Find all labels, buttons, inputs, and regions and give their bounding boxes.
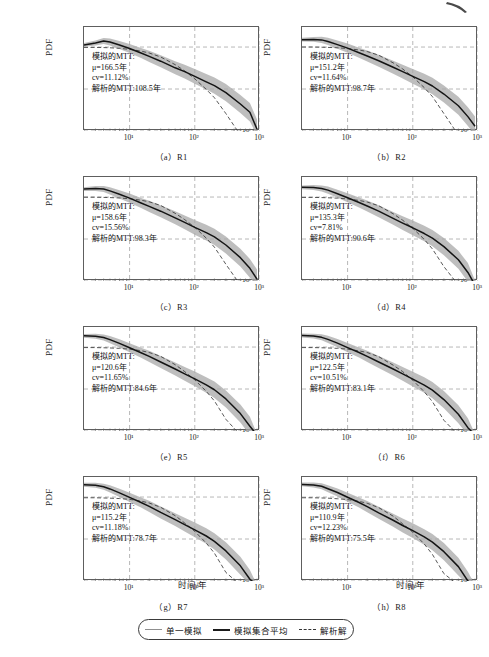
xaxis-tick: 10³: [254, 283, 264, 292]
panel-r1: PDF10⁻²10⁻³10⁻⁴10¹10²10³模拟的MTT:μ=166.5年c…: [46, 22, 274, 172]
figure-root: PDF10⁻²10⁻³10⁻⁴10¹10²10³模拟的MTT:μ=166.5年c…: [0, 0, 489, 657]
panel-r8: PDF10⁻²10⁻³10⁻⁴10¹10²10³模拟的MTT:μ=110.9年c…: [264, 472, 489, 622]
xaxis-tick: 10³: [254, 583, 264, 592]
cv-value: cv=11.12%: [92, 73, 161, 84]
mtt-title: 模拟的MTT:: [92, 352, 157, 363]
xaxis-label-left: 时间/年: [178, 578, 207, 590]
panel-r4: PDF10⁻²10⁻³10⁻⁴10¹10²10³模拟的MTT:μ=135.3年c…: [264, 172, 489, 322]
mu-value: μ=158.6年: [92, 213, 157, 224]
mtt-title: 模拟的MTT:: [310, 202, 375, 213]
analytic-mtt-value: 解析的MTT:90.6年: [310, 234, 375, 245]
mtt-title: 模拟的MTT:: [92, 502, 157, 513]
xaxis-tick: 10¹: [124, 583, 134, 592]
panel-r6: PDF10⁻²10⁻³10⁻⁴10¹10²10³模拟的MTT:μ=122.5年c…: [264, 322, 489, 472]
xaxis-tick: 10²: [407, 283, 417, 292]
yaxis-label: PDF: [44, 38, 54, 56]
yaxis-label: PDF: [44, 188, 54, 206]
cv-value: cv=7.81%: [310, 223, 375, 234]
yaxis-label: PDF: [262, 38, 272, 56]
cv-value: cv=11.18%: [92, 523, 157, 534]
panel-r7: PDF10⁻²10⁻³10⁻⁴10¹10²10³模拟的MTT:μ=115.2年c…: [46, 472, 274, 622]
panel-r5: PDF10⁻²10⁻³10⁻⁴10¹10²10³模拟的MTT:μ=120.6年c…: [46, 322, 274, 472]
stats-annotation: 模拟的MTT:μ=122.5年cv=10.51%解析的MTT:83.1年: [310, 352, 375, 395]
mtt-title: 模拟的MTT:: [310, 502, 375, 513]
stats-annotation: 模拟的MTT:μ=158.6年cv=15.56%解析的MTT:98.3年: [92, 202, 157, 245]
xaxis-tick: 10²: [407, 133, 417, 142]
legend-label-single-sim: 单一模拟: [166, 624, 202, 636]
stats-annotation: 模拟的MTT:μ=110.9年cv=12.23%解析的MTT:75.5年: [310, 502, 375, 545]
xaxis-tick: 10³: [472, 283, 482, 292]
mtt-title: 模拟的MTT:: [310, 52, 375, 63]
mtt-title: 模拟的MTT:: [92, 202, 157, 213]
panel-caption: （h）R8: [301, 600, 477, 612]
xaxis-tick: 10³: [472, 433, 482, 442]
xaxis-tick: 10¹: [342, 133, 352, 142]
legend-item-ensemble-mean: 模拟集合平均: [213, 624, 288, 636]
xaxis-tick: 10²: [189, 433, 199, 442]
yaxis-label: PDF: [44, 338, 54, 356]
panel-caption: （c）R3: [83, 300, 259, 312]
analytic-mtt-value: 解析的MTT:78.7年: [92, 534, 157, 545]
xaxis-tick: 10¹: [124, 283, 134, 292]
mu-value: μ=135.3年: [310, 213, 375, 224]
legend-label-analytic: 解析解: [320, 624, 347, 636]
cv-value: cv=12.23%: [310, 523, 375, 534]
xaxis-tick: 10²: [189, 283, 199, 292]
stats-annotation: 模拟的MTT:μ=135.3年cv=7.81%解析的MTT:90.6年: [310, 202, 375, 245]
xaxis-tick: 10³: [254, 433, 264, 442]
analytic-mtt-value: 解析的MTT:75.5年: [310, 534, 375, 545]
cv-value: cv=11.65%: [92, 373, 157, 384]
mu-value: μ=166.5年: [92, 63, 161, 74]
xaxis-tick: 10¹: [124, 133, 134, 142]
yaxis-label: PDF: [262, 488, 272, 506]
mu-value: μ=110.9年: [310, 513, 375, 524]
mu-value: μ=115.2年: [92, 513, 157, 524]
xaxis-tick: 10³: [472, 133, 482, 142]
xaxis-tick: 10¹: [124, 433, 134, 442]
panel-r3: PDF10⁻²10⁻³10⁻⁴10¹10²10³模拟的MTT:μ=158.6年c…: [46, 172, 274, 322]
stats-annotation: 模拟的MTT:μ=151.2年cv=11.64%解析的MTT:98.7年: [310, 52, 375, 95]
xaxis-tick: 10²: [189, 133, 199, 142]
legend-swatch-ensemble-mean: [213, 629, 230, 631]
legend-item-analytic: 解析解: [299, 624, 347, 636]
mu-value: μ=151.2年: [310, 63, 375, 74]
yaxis-label: PDF: [262, 338, 272, 356]
yaxis-label: PDF: [44, 488, 54, 506]
stats-annotation: 模拟的MTT:μ=120.6年cv=11.65%解析的MTT:84.6年: [92, 352, 157, 395]
analytic-mtt-value: 解析的MTT:98.3年: [92, 234, 157, 245]
scan-artifact: [445, 0, 471, 16]
yaxis-label: PDF: [262, 188, 272, 206]
panel-caption: （g）R7: [83, 600, 259, 612]
analytic-mtt-value: 解析的MTT:108.5年: [92, 84, 161, 95]
cv-value: cv=11.64%: [310, 73, 375, 84]
stats-annotation: 模拟的MTT:μ=166.5年cv=11.12%解析的MTT:108.5年: [92, 52, 161, 95]
legend: 单一模拟 模拟集合平均 解析解: [138, 619, 354, 640]
mtt-title: 模拟的MTT:: [92, 52, 161, 63]
analytic-mtt-value: 解析的MTT:98.7年: [310, 84, 375, 95]
panel-caption: （b）R2: [301, 150, 477, 162]
legend-swatch-analytic: [299, 629, 316, 630]
mu-value: μ=120.6年: [92, 363, 157, 374]
panel-r2: PDF10⁻²10⁻³10⁻⁴10¹10²10³模拟的MTT:μ=151.2年c…: [264, 22, 489, 172]
xaxis-tick: 10³: [472, 583, 482, 592]
stats-annotation: 模拟的MTT:μ=115.2年cv=11.18%解析的MTT:78.7年: [92, 502, 157, 545]
xaxis-label-right: 时间/年: [396, 578, 425, 590]
xaxis-tick: 10¹: [342, 583, 352, 592]
cv-value: cv=15.56%: [92, 223, 157, 234]
mu-value: μ=122.5年: [310, 363, 375, 374]
legend-item-single-sim: 单一模拟: [145, 624, 202, 636]
panel-caption: （d）R4: [301, 300, 477, 312]
legend-swatch-single-sim: [145, 629, 162, 630]
xaxis-tick: 10¹: [342, 283, 352, 292]
panel-caption: （f）R6: [301, 450, 477, 462]
xaxis-tick: 10³: [254, 133, 264, 142]
panel-caption: （a）R1: [83, 150, 259, 162]
legend-label-ensemble-mean: 模拟集合平均: [234, 624, 288, 636]
xaxis-tick: 10²: [407, 433, 417, 442]
cv-value: cv=10.51%: [310, 373, 375, 384]
mtt-title: 模拟的MTT:: [310, 352, 375, 363]
panel-caption: （e）R5: [83, 450, 259, 462]
analytic-mtt-value: 解析的MTT:83.1年: [310, 384, 375, 395]
analytic-mtt-value: 解析的MTT:84.6年: [92, 384, 157, 395]
xaxis-tick: 10¹: [342, 433, 352, 442]
